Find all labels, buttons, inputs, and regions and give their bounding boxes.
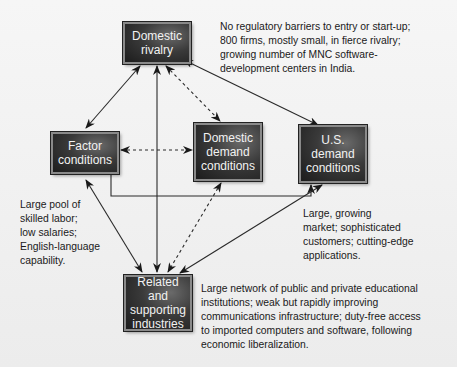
box-label: industries [132,317,183,331]
box-label: Factor [68,139,102,153]
box-label: rivalry [141,43,173,57]
note-line: economic liberalization. [201,337,421,351]
box-label: demand [311,147,354,161]
note-domestic-rivalry: No regulatory barriers to entry or start… [220,19,410,75]
note-line: development centers in India. [220,61,410,75]
box-label: U.S. [321,133,344,147]
note-line: communications infrastructure; duty-free… [201,309,421,323]
box-label: conditions [58,153,112,167]
box-domestic-rivalry: Domestic rivalry [123,22,191,64]
box-label: Domestic [132,29,182,43]
note-line: customers; cutting-edge [303,234,413,248]
box-label: supporting [130,303,186,317]
note-line: Large pool of [20,197,100,211]
note-factor-conditions: Large pool of skilled labor; low salarie… [20,197,100,267]
note-line: skilled labor; [20,211,100,225]
note-us-demand-conditions: Large, growing market; sophisticated cus… [303,206,413,262]
note-line: 800 firms, mostly small, in fierce rival… [220,33,410,47]
box-label: conditions [201,159,255,173]
box-label: conditions [306,161,360,175]
note-line: No regulatory barriers to entry or start… [220,19,410,33]
box-factor-conditions: Factor conditions [51,132,119,174]
arrow-rivalry-domestic-demand [166,66,220,121]
note-related-supporting-industries: Large network of public and private educ… [201,281,421,351]
note-line: low salaries; [20,225,100,239]
note-line: Large network of public and private educ… [201,281,421,295]
note-line: Large, growing [303,206,413,220]
note-line: market; sophisticated [303,220,413,234]
note-line: English-language [20,239,100,253]
arrow-us-demand-related [180,185,322,273]
note-line: institutions; weak but rapidly improving [201,295,421,309]
note-line: capability. [20,253,100,267]
box-related-supporting-industries: Related and supporting industries [124,275,192,331]
note-line: applications. [303,248,413,262]
arrow-rivalry-factor [86,66,140,128]
box-domestic-demand-conditions: Domestic demand conditions [194,123,262,181]
note-line: growing number of MNC software- [220,47,410,61]
note-line: to imported computers and software, foll… [201,323,421,337]
box-label: demand [206,145,249,159]
box-label: Domestic [203,131,253,145]
box-label: Related and [126,275,190,303]
box-us-demand-conditions: U.S. demand conditions [299,125,367,183]
